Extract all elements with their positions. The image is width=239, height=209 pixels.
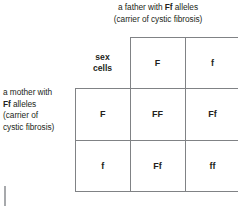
corner-tick-mark [4,186,6,206]
father-allele-1: F [130,38,185,89]
father-caption-line2: (carrier of cystic fibrosis) [78,14,238,26]
offspring-cell-1-1: FF [130,89,185,141]
father-genotype: Ff [165,2,173,12]
mother-caption-line4: cystic fibrosis) [3,122,75,134]
father-caption-line1: a father with Ff alleles [78,2,238,14]
offspring-cell-2-2: ff [185,140,238,192]
sex-cells-line1: sex [76,52,130,63]
offspring-cell-1-2: Ff [185,89,238,141]
sex-cells-label: sex cells [76,38,131,89]
father-caption-suffix: alleles [173,2,198,12]
mother-caption-line3: (carrier of [3,110,75,122]
punnett-row-1: F FF Ff [76,89,239,141]
offspring-cell-2-1: Ff [130,140,185,192]
punnett-header-row: sex cells F f [76,38,239,89]
father-caption: a father with Ff alleles (carrier of cys… [78,2,238,25]
mother-caption: a mother with Ff alleles (carrier of cys… [3,87,75,133]
mother-genotype: Ff [3,99,11,109]
father-allele-2: f [185,38,238,89]
mother-allele-2: f [76,140,131,192]
punnett-row-2: f Ff ff [76,140,239,192]
sex-cells-line2: cells [76,63,130,74]
mother-caption-line2: Ff alleles [3,99,75,111]
mother-caption-suffix: alleles [11,99,36,109]
father-caption-prefix: a father with [118,2,165,12]
mother-allele-1: F [76,89,131,141]
punnett-square-table: sex cells F f F FF Ff f Ff ff [75,37,238,192]
mother-caption-line1: a mother with [3,87,75,99]
